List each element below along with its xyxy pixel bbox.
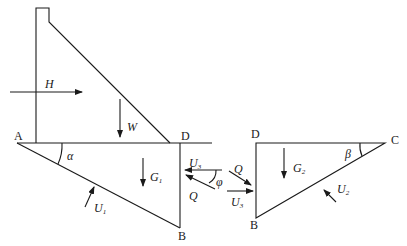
label-U3-left: U3: [189, 156, 202, 171]
label-G1: G1: [150, 170, 162, 185]
label-U3-right: U3: [231, 195, 244, 210]
label-U1: U1: [94, 201, 106, 216]
label-beta: β: [344, 147, 351, 161]
angle-beta-arc: [360, 143, 362, 156]
label-point-D-left: D: [181, 129, 190, 143]
left-wedge: [17, 143, 180, 228]
label-alpha: α: [67, 149, 74, 163]
angle-phi-arc: [209, 170, 216, 183]
label-phi: φ: [216, 175, 223, 189]
label-H: H: [44, 77, 55, 91]
label-G2: G2: [293, 161, 306, 176]
label-point-B-left: B: [178, 229, 186, 243]
label-point-B-right: B: [250, 218, 258, 232]
arrow-U1: [85, 187, 94, 207]
label-point-D-right: D: [251, 127, 260, 141]
arrow-U2: [324, 190, 336, 202]
label-point-A: A: [14, 129, 23, 143]
label-point-C: C: [391, 133, 399, 147]
dam-diagram: A D B D B C H W G1 U1 U3 Q Q U3 G2 U2 α …: [0, 0, 407, 246]
dam-body: [36, 8, 170, 143]
label-Q-right: Q: [234, 162, 243, 176]
label-W: W: [127, 120, 138, 134]
label-Q-left: Q: [189, 189, 198, 203]
angle-alpha-arc: [58, 143, 62, 164]
right-wedge: [256, 143, 385, 218]
label-U2: U2: [337, 182, 350, 197]
